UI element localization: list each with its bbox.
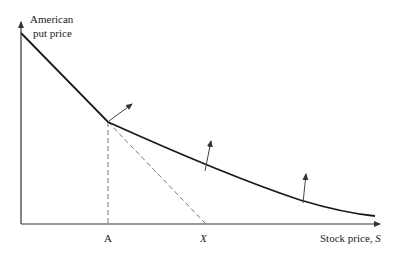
x-axis-label-prefix: Stock price, <box>320 232 375 244</box>
tick-label-A: A <box>104 232 112 244</box>
y-axis-label-line2: put price <box>33 27 72 39</box>
y-axis-label-line1: American <box>30 13 74 25</box>
x-axis-label: Stock price, S <box>320 232 381 244</box>
tick-label-X: X <box>199 232 208 244</box>
dashed-intrinsic-line <box>108 122 206 224</box>
put-price-curve <box>21 33 375 216</box>
normal-arrow-3 <box>303 174 306 203</box>
normal-arrow-1 <box>109 104 132 121</box>
american-put-price-diagram: American put price A X Stock price, S <box>0 0 394 254</box>
x-axis-label-var: S <box>375 232 381 244</box>
